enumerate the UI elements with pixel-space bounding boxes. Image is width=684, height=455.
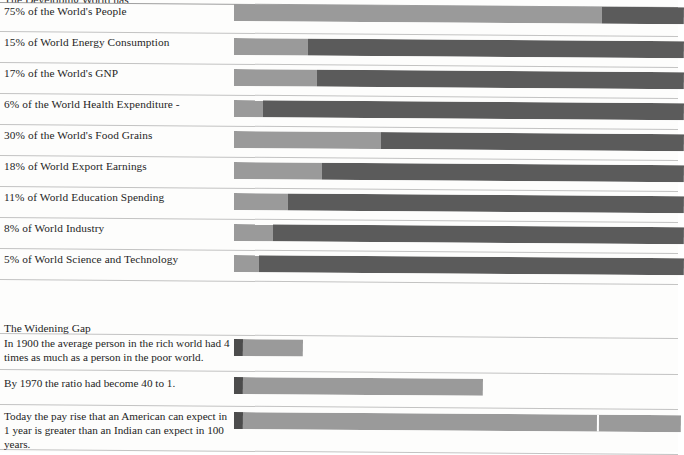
chart-bar [234, 162, 684, 182]
bar-segment-remainder [381, 132, 684, 151]
bar-segment-remainder [288, 193, 684, 213]
chart-bar [234, 255, 684, 275]
bar-segment-developing-share [234, 100, 264, 117]
widening-gap-row-text: Today the pay rise that an American can … [4, 409, 230, 452]
bar-segment-remainder [273, 224, 684, 244]
gap-bar-segment-rich-world [243, 412, 681, 432]
chart-row-label: 75% of the World's People [4, 5, 127, 18]
chart-bar [234, 193, 684, 213]
bar-segment-developing-share [234, 224, 273, 241]
bar-segment-developing-share [234, 38, 308, 56]
chart-bar [234, 69, 684, 89]
chart-row-label: 15% of World Energy Consumption [4, 36, 170, 49]
chart-row-label: 8% of World Industry [4, 222, 104, 235]
chart-bar [234, 131, 684, 151]
gap-bar-segment-rich-world [243, 339, 303, 356]
bar-segment-developing-share [234, 193, 288, 210]
chart-row-label: 5% of World Science and Technology [4, 253, 178, 266]
bar-segment-remainder [322, 163, 684, 183]
chart-row-label: 17% of the World's GNP [4, 67, 118, 80]
chart-row-label: 6% of the World Health Expenditure - [4, 98, 180, 111]
widening-gap-bar [234, 412, 681, 432]
chart-row-label: 18% of World Export Earnings [4, 160, 147, 173]
chart-row-label: 11% of World Education Spending [4, 191, 164, 204]
widening-gap-row-text: In 1900 the average person in the rich w… [4, 336, 230, 364]
chart-bar [234, 100, 684, 120]
widening-gap-row-text: By 1970 the ratio had become 40 to 1. [4, 376, 230, 390]
bar-segment-developing-share [234, 255, 259, 272]
bar-segment-remainder [263, 100, 684, 120]
gap-bar-segment-poor-world [234, 339, 243, 356]
chart-bar [234, 224, 684, 244]
bar-segment-remainder [602, 7, 684, 25]
bar-segment-developing-share [234, 162, 322, 180]
widening-gap-bar [234, 339, 303, 357]
chart-bar [234, 4, 684, 24]
divider-rule [0, 369, 678, 375]
bar-segment-remainder [258, 255, 684, 275]
bar-segment-developing-share [234, 4, 602, 24]
chart-row-label: 30% of the World's Food Grains [4, 129, 153, 142]
bar-segment-developing-share [234, 131, 381, 149]
gap-bar-segment-rich-world [243, 377, 483, 396]
widening-gap-bar [234, 377, 483, 396]
gap-bar-segment-poor-world [234, 377, 243, 394]
gap-bar-segment-poor-world [234, 412, 243, 429]
gap-bar-axis-break [597, 415, 599, 432]
bar-segment-developing-share [234, 69, 318, 87]
chart-bar [234, 38, 684, 58]
divider-rule [0, 279, 678, 285]
bar-segment-remainder [307, 39, 684, 59]
bar-segment-remainder [317, 70, 684, 90]
